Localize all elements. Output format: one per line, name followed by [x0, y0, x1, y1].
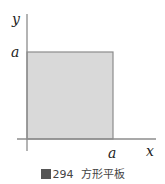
- figure-marker-icon: [41, 169, 51, 179]
- figure-title: 方形平板: [81, 168, 125, 181]
- x-tick-label-a: a: [108, 146, 116, 160]
- y-axis-label: y: [12, 12, 20, 26]
- figure-caption: 294 方形平板: [0, 168, 165, 182]
- square-plate-diagram: y a a x: [0, 0, 165, 160]
- x-axis-label: x: [146, 144, 154, 158]
- y-tick-label-a: a: [11, 45, 19, 59]
- diagram-canvas: [0, 0, 165, 160]
- square-plate: [27, 52, 113, 139]
- figure-number: 294: [53, 168, 74, 181]
